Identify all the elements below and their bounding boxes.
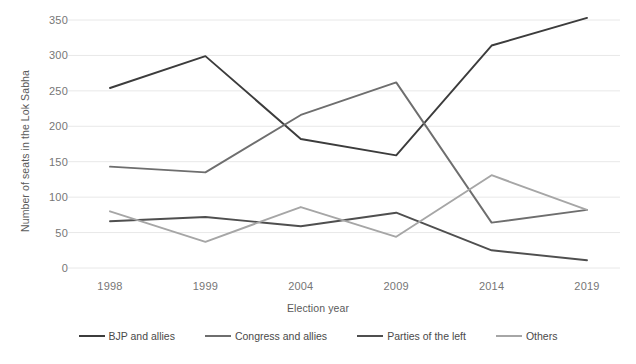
legend-line-icon (357, 335, 383, 337)
legend-item[interactable]: Congress and allies (205, 330, 327, 342)
legend-label: Parties of the left (387, 330, 466, 342)
legend-line-icon (205, 335, 231, 337)
x-tick-label: 2014 (462, 280, 522, 292)
legend-label: Congress and allies (235, 330, 327, 342)
series-line-0 (110, 18, 587, 155)
line-chart: Number of seats in the Lok Sabha 0501001… (0, 0, 636, 364)
x-axis-title: Election year (0, 302, 636, 314)
x-tick-label: 1998 (80, 280, 140, 292)
x-tick-label: 2009 (366, 280, 426, 292)
legend-item[interactable]: Parties of the left (357, 330, 466, 342)
x-tick-label: 1999 (175, 280, 235, 292)
legend-label: BJP and allies (109, 330, 175, 342)
x-tick-label: 2019 (557, 280, 617, 292)
x-tick-label: 2004 (271, 280, 331, 292)
chart-legend: BJP and alliesCongress and alliesParties… (0, 330, 636, 342)
series-line-1 (110, 82, 587, 222)
legend-label: Others (526, 330, 558, 342)
legend-item[interactable]: BJP and allies (79, 330, 175, 342)
legend-line-icon (496, 335, 522, 337)
legend-item[interactable]: Others (496, 330, 558, 342)
legend-line-icon (79, 335, 105, 337)
series-line-3 (110, 175, 587, 242)
